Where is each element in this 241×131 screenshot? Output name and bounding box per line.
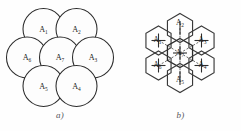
panel-a-caption: a) — [0, 110, 120, 120]
cell-label-A6: A6 — [153, 60, 161, 70]
panel-a-circle-packing: A1A2A6A7A3A5A4 a) — [0, 0, 120, 131]
panel-b-hexagon-tessellation: A2A1A3A7A6A4A5 b) — [120, 0, 241, 131]
panel-b-caption: b) — [120, 110, 241, 120]
cell-label-A1: A1 — [153, 35, 161, 45]
cell-label-A7: A7 — [176, 48, 184, 58]
circle-packing-diagram: A1A2A6A7A3A5A4 — [0, 0, 120, 110]
cell-label-A2: A2 — [176, 18, 184, 28]
figure-root: A1A2A6A7A3A5A4 a) A2A1A3A7A6A4A5 b) — [0, 0, 241, 131]
cell-label-A5: A5 — [176, 75, 184, 85]
cell-label-A4: A4 — [198, 60, 206, 70]
cell-label-A3: A3 — [198, 35, 206, 45]
hexagon-tessellation-diagram: A2A1A3A7A6A4A5 — [120, 0, 241, 110]
